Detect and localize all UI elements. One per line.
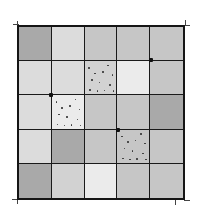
stipple-dot bbox=[109, 84, 111, 86]
grid-cell-r2-c0 bbox=[19, 95, 52, 129]
grid-cell-r1-c1 bbox=[52, 61, 85, 95]
grid-cell-r0-c0 bbox=[19, 27, 52, 61]
stipple-dot bbox=[69, 105, 71, 107]
stipple-dot bbox=[145, 159, 147, 161]
stipple-dot bbox=[124, 148, 126, 150]
grid-cell-r4-c4 bbox=[150, 164, 183, 198]
stipple-dot bbox=[113, 90, 115, 92]
stipple-dot bbox=[136, 158, 138, 160]
stipple-dot bbox=[132, 150, 134, 152]
grid-cell-r3-c2 bbox=[85, 130, 118, 164]
stipple-dot bbox=[142, 153, 144, 155]
grid-cell-r4-c0 bbox=[19, 164, 52, 198]
stipple-dot bbox=[89, 89, 91, 91]
corner-tick-bottom-right-h bbox=[184, 200, 190, 201]
grid-cell-r0-c2 bbox=[85, 27, 118, 61]
grid-cell-r1-c3 bbox=[117, 61, 150, 95]
grid-cell-r3-c1 bbox=[52, 130, 85, 164]
stipple-dot bbox=[97, 90, 99, 92]
stipple-dot bbox=[107, 65, 109, 67]
grid-cell-r0-c4 bbox=[150, 27, 183, 61]
shaded-grid bbox=[17, 25, 185, 200]
stipple-dot bbox=[66, 116, 68, 118]
stipple-dot bbox=[88, 67, 90, 69]
stipple-dot bbox=[58, 114, 60, 116]
stipple-dot bbox=[75, 99, 77, 101]
stipple-dot bbox=[144, 143, 146, 145]
stipple-dot bbox=[80, 125, 82, 127]
stipple-dot bbox=[91, 79, 93, 81]
stipple-dot bbox=[94, 73, 96, 75]
stipple-dot bbox=[71, 124, 73, 126]
stipple-dot bbox=[104, 90, 106, 92]
grid-cell-r2-c1 bbox=[52, 95, 85, 129]
grid-cell-r3-c0 bbox=[19, 130, 52, 164]
stipple-dot bbox=[77, 119, 79, 121]
stipple-dot bbox=[122, 158, 124, 160]
stipple-dot bbox=[127, 141, 129, 143]
grid-cell-r2-c2 bbox=[85, 95, 118, 129]
grid-cell-r1-c0 bbox=[19, 61, 52, 95]
stipple-dot bbox=[64, 125, 66, 127]
grid-cell-r4-c3 bbox=[117, 164, 150, 198]
stipple-dot bbox=[102, 71, 104, 73]
stipple-dot bbox=[121, 136, 123, 138]
grid-cell-r4-c2 bbox=[85, 164, 118, 198]
stipple-dot bbox=[99, 82, 101, 84]
stipple-dot bbox=[112, 74, 114, 76]
intersection-mark bbox=[49, 93, 53, 97]
stipple-dot bbox=[57, 124, 59, 126]
stipple-dot bbox=[135, 140, 137, 142]
grid-cell-r3-c4 bbox=[150, 130, 183, 164]
grid-cell-r1-c4 bbox=[150, 61, 183, 95]
grid-cell-r4-c1 bbox=[52, 164, 85, 198]
intersection-mark bbox=[149, 58, 153, 62]
grid-cell-r1-c2 bbox=[85, 61, 118, 95]
grid-cell-r3-c3 bbox=[117, 130, 150, 164]
stipple-dot bbox=[140, 133, 142, 135]
grid-cell-r0-c1 bbox=[52, 27, 85, 61]
stipple-dot bbox=[56, 101, 58, 103]
grid-cell-r2-c3 bbox=[117, 95, 150, 129]
corner-tick-top-right-v bbox=[185, 20, 186, 26]
stipple-dot bbox=[61, 107, 63, 109]
stipple-dot bbox=[79, 109, 81, 111]
grid-cell-r2-c4 bbox=[150, 95, 183, 129]
grid-cell-r0-c3 bbox=[117, 27, 150, 61]
stipple-dot bbox=[129, 159, 131, 161]
diagram-canvas bbox=[0, 0, 204, 216]
intersection-mark bbox=[116, 128, 120, 132]
